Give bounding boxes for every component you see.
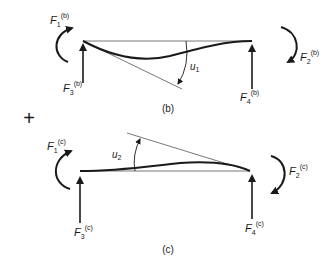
angle-label-u1: u1 bbox=[190, 61, 200, 73]
moment-arrow-left-icon bbox=[56, 28, 72, 62]
plus-sign: + bbox=[23, 107, 35, 129]
caption-b: (b) bbox=[162, 103, 174, 114]
moment-label-f1-c: F1(c) bbox=[47, 138, 66, 154]
moment-arrow-left-icon bbox=[56, 151, 71, 189]
angle-arc-icon bbox=[134, 139, 140, 171]
moment-arrow-right-icon bbox=[281, 27, 297, 62]
beam-superposition-diagram: u1 F1(b) F2(b) F3(b) F4(b) (b) + bbox=[0, 0, 330, 267]
angle-label-u2: u2 bbox=[112, 149, 122, 161]
caption-c: (c) bbox=[162, 244, 174, 255]
panel-c: u2 F1(c) F2(c) F3(c) F4(c) (c) bbox=[47, 133, 308, 255]
force-label-f4-b: F4(b) bbox=[240, 89, 259, 105]
deflected-beam bbox=[80, 162, 250, 171]
panel-b: u1 F1(b) F2(b) F3(b) F4(b) (b) bbox=[50, 12, 319, 114]
moment-label-f2-b: F2(b) bbox=[300, 49, 319, 65]
force-label-f4-c: F4(c) bbox=[245, 220, 264, 236]
deflected-beam bbox=[83, 41, 252, 59]
moment-arrow-right-icon bbox=[271, 156, 285, 193]
angle-arc-icon bbox=[178, 41, 187, 84]
moment-label-f2-c: F2(c) bbox=[289, 163, 308, 179]
moment-label-f1-b: F1(b) bbox=[50, 12, 69, 28]
force-label-f3-c: F3(c) bbox=[74, 224, 93, 240]
force-label-f3-b: F3(b) bbox=[63, 80, 82, 96]
